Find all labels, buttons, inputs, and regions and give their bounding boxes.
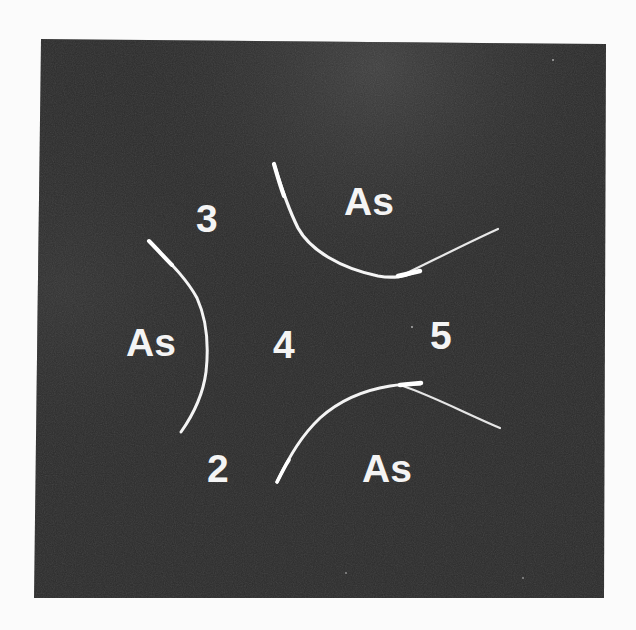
label-as-bottom: As [362, 449, 412, 488]
micrograph-photo [0, 0, 636, 630]
figure-page: As 3 As 4 5 2 As [0, 0, 636, 630]
label-region-5: 5 [430, 316, 452, 355]
label-as-left: As [126, 323, 176, 362]
label-as-top: As [344, 182, 394, 221]
label-region-3: 3 [196, 199, 218, 238]
label-region-2: 2 [207, 449, 229, 488]
label-region-4: 4 [273, 325, 295, 364]
